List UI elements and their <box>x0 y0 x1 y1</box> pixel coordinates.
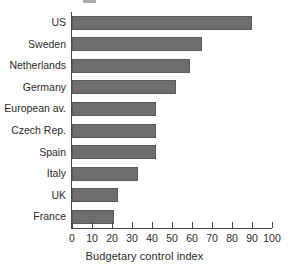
category-label-us: US <box>2 12 66 34</box>
bar-row: Italy <box>72 163 272 185</box>
bar-row: Czech Rep. <box>72 120 272 142</box>
bar-row: Netherlands <box>72 55 272 77</box>
x-axis-title: Budgetary control index <box>0 250 289 262</box>
category-label-netherlands: Netherlands <box>2 55 66 77</box>
bar-chart-figure: USSwedenNetherlandsGermanyEuropean av.Cz… <box>0 0 289 274</box>
category-label-uk: UK <box>2 185 66 207</box>
bar <box>72 188 118 202</box>
bar-row: Germany <box>72 77 272 99</box>
bar <box>72 145 156 159</box>
x-tick-mark <box>272 222 273 228</box>
x-tick-mark <box>92 222 93 228</box>
bar <box>72 124 156 138</box>
x-tick-mark <box>72 222 73 228</box>
category-label-italy: Italy <box>2 163 66 185</box>
bar <box>72 167 138 181</box>
x-tick-mark <box>252 222 253 228</box>
x-tick-mark <box>132 222 133 228</box>
bar <box>72 59 190 73</box>
plot-area: USSwedenNetherlandsGermanyEuropean av.Cz… <box>72 12 272 228</box>
bar <box>72 102 156 116</box>
bar-row: US <box>72 12 272 34</box>
bar-row: Sweden <box>72 34 272 56</box>
x-tick-mark <box>192 222 193 228</box>
x-tick-mark <box>232 222 233 228</box>
x-tick-label: 100 <box>257 232 287 245</box>
cropped-title-remnant <box>83 0 96 3</box>
x-tick-mark <box>212 222 213 228</box>
category-label-germany: Germany <box>2 77 66 99</box>
bar-row: European av. <box>72 98 272 120</box>
bar <box>72 80 176 94</box>
category-label-spain: Spain <box>2 142 66 164</box>
category-label-france: France <box>2 206 66 228</box>
bar <box>72 37 202 51</box>
bar <box>72 16 252 30</box>
x-tick-mark <box>112 222 113 228</box>
category-label-sweden: Sweden <box>2 34 66 56</box>
bar-row: UK <box>72 185 272 207</box>
category-label-czech-rep: Czech Rep. <box>2 120 66 142</box>
x-tick-mark <box>152 222 153 228</box>
bar-row: Spain <box>72 142 272 164</box>
x-tick-mark <box>172 222 173 228</box>
category-label-european-av: European av. <box>2 98 66 120</box>
x-axis-line <box>71 228 272 229</box>
